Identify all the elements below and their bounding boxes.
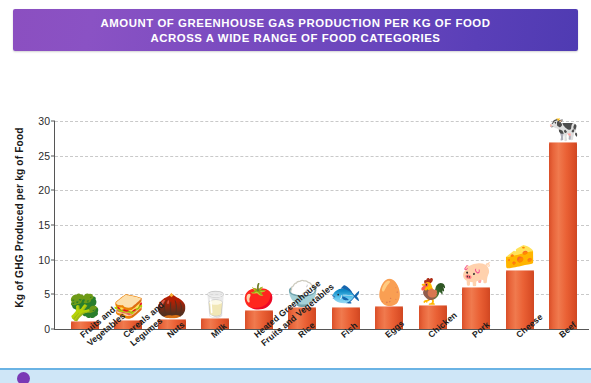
y-axis-tick-label: 20: [38, 184, 50, 196]
bar-beef: [549, 142, 577, 329]
fish-icon-glyph: 🐟: [330, 281, 361, 306]
chicken-icon-glyph: 🐓: [417, 279, 448, 304]
bar-slot: 🌰: [150, 121, 194, 329]
y-axis-tick-label: 25: [38, 150, 50, 162]
milk-glass-icon: 🥛: [194, 292, 238, 317]
bar-slot: 🐄: [542, 121, 586, 329]
footer-bullet-icon: [17, 372, 30, 383]
chart-area: Kg of GHG Produced per kg of Food 051015…: [8, 55, 586, 340]
bar-slot: 🧀: [498, 121, 542, 329]
y-axis-title: Kg of GHG Produced per kg of Food: [10, 117, 28, 317]
cow-icon: 🐄: [542, 116, 586, 141]
cheese-icon-glyph: 🧀: [504, 244, 535, 269]
cheese-icon: 🧀: [498, 244, 542, 269]
bar-slot: 🍅: [237, 121, 281, 329]
eggs-icon-glyph: 🥚: [374, 280, 405, 305]
bar-slot: 🐖: [455, 121, 499, 329]
chart-title-line-2: ACROSS A WIDE RANGE OF FOOD CATEGORIES: [150, 31, 440, 46]
chart-title-banner: AMOUNT OF GREENHOUSE GAS PRODUCTION PER …: [13, 9, 578, 51]
y-axis-tick-label: 10: [38, 254, 50, 266]
footer-strip: [0, 368, 591, 383]
pig-icon: 🐖: [455, 261, 499, 286]
pig-icon-glyph: 🐖: [461, 261, 492, 286]
y-axis-tick-label: 15: [38, 219, 50, 231]
milk-glass-icon-glyph: 🥛: [200, 292, 231, 317]
y-axis-title-text: Kg of GHG Produced per kg of Food: [14, 127, 25, 307]
eggs-icon: 🥚: [368, 280, 412, 305]
bar-slot: 🥚: [368, 121, 412, 329]
bar-slot: 🥛: [194, 121, 238, 329]
chart-title-line-1: AMOUNT OF GREENHOUSE GAS PRODUCTION PER …: [100, 16, 490, 31]
y-axis-tick-label: 30: [38, 115, 50, 127]
chicken-icon: 🐓: [411, 279, 455, 304]
greenhouse-produce-icon: 🍅: [237, 284, 281, 309]
bar-slot: 🐟: [324, 121, 368, 329]
bar-slot: 🥦: [63, 121, 107, 329]
cow-icon-glyph: 🐄: [548, 116, 579, 141]
y-axis-tick-label: 0: [44, 323, 50, 335]
bar-slot: 🥪: [107, 121, 151, 329]
infographic-page: AMOUNT OF GREENHOUSE GAS PRODUCTION PER …: [0, 0, 591, 383]
y-axis-tick-label: 5: [44, 288, 50, 300]
greenhouse-produce-icon-glyph: 🍅: [243, 284, 274, 309]
bar-slot: 🐓: [411, 121, 455, 329]
